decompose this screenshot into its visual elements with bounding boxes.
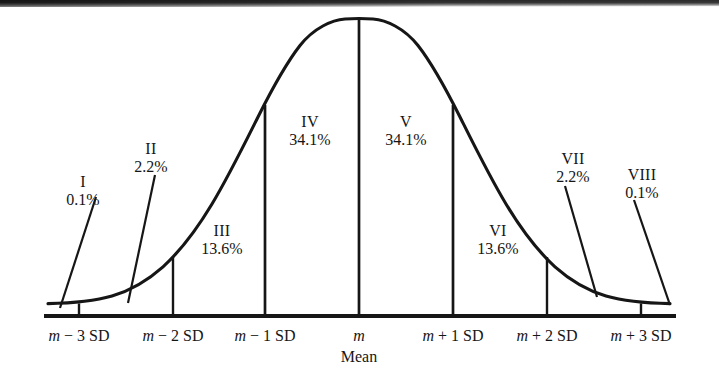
- axis-tick-m-plus-1sd: m: [422, 327, 434, 344]
- region-label-8: VIII 0.1%: [602, 166, 682, 202]
- region-percent-1: 0.1%: [46, 191, 120, 209]
- region-label-5: V 34.1%: [362, 113, 450, 149]
- normal-distribution-figure: I 0.1% II 2.2% III 13.6% IV 34.1% V 34.1…: [0, 0, 719, 387]
- region-percent-6: 13.6%: [455, 240, 541, 258]
- region-percent-4: 34.1%: [266, 131, 354, 149]
- axis-tick-m-mean: m: [353, 327, 365, 344]
- region-percent-8: 0.1%: [602, 184, 682, 202]
- region-roman-2: II: [114, 140, 188, 158]
- region-label-7: VII 2.2%: [536, 150, 610, 186]
- axis-tick-rest-minus-1sd: − 1 SD: [246, 327, 295, 344]
- axis-tick-m-minus-3sd: m: [48, 327, 60, 344]
- region-percent-5: 34.1%: [362, 131, 450, 149]
- leader-line-region-8: [634, 200, 670, 305]
- region-label-3: III 13.6%: [179, 222, 265, 258]
- axis-tick-m-plus-2sd: m: [516, 327, 528, 344]
- region-roman-6: VI: [455, 222, 541, 240]
- region-label-4: IV 34.1%: [266, 113, 354, 149]
- axis-tick-label-mean: m: [319, 327, 399, 345]
- region-roman-1: I: [46, 173, 120, 191]
- axis-tick-m-minus-1sd: m: [234, 327, 246, 344]
- axis-tick-label-plus-3sd: m + 3 SD: [585, 327, 697, 345]
- region-percent-3: 13.6%: [179, 240, 265, 258]
- axis-tick-rest-plus-1sd: + 1 SD: [434, 327, 483, 344]
- axis-tick-m-minus-2sd: m: [142, 327, 154, 344]
- region-percent-2: 2.2%: [114, 158, 188, 176]
- axis-tick-rest-minus-3sd: − 3 SD: [60, 327, 109, 344]
- region-roman-8: VIII: [602, 166, 682, 184]
- axis-tick-rest-plus-3sd: + 3 SD: [622, 327, 671, 344]
- axis-tick-rest-plus-2sd: + 2 SD: [528, 327, 577, 344]
- leader-line-region-1: [60, 197, 96, 308]
- region-label-1: I 0.1%: [46, 173, 120, 209]
- region-roman-3: III: [179, 222, 265, 240]
- region-roman-4: IV: [266, 113, 354, 131]
- axis-tick-rest-minus-2sd: − 2 SD: [154, 327, 203, 344]
- mean-caption: Mean: [319, 348, 399, 366]
- region-label-2: II 2.2%: [114, 140, 188, 176]
- region-percent-7: 2.2%: [536, 168, 610, 186]
- axis-tick-m-plus-3sd: m: [610, 327, 622, 344]
- region-roman-7: VII: [536, 150, 610, 168]
- region-roman-5: V: [362, 113, 450, 131]
- region-label-6: VI 13.6%: [455, 222, 541, 258]
- axis-tick-label-minus-1sd: m − 1 SD: [209, 327, 321, 345]
